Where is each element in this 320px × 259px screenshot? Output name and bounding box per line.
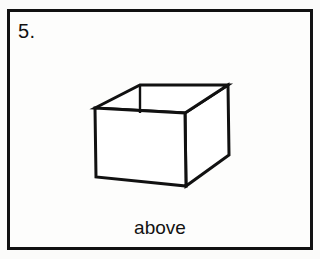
item-frame-border [7, 9, 313, 250]
item-number-label: 5. [18, 21, 36, 41]
figure-caption: above [0, 218, 320, 237]
worksheet-item: 5. above [0, 0, 320, 259]
